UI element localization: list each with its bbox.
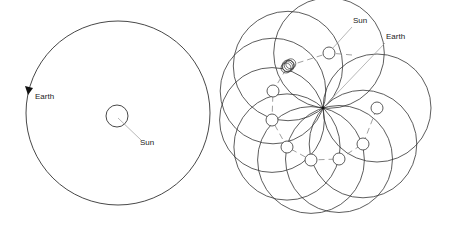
sun-position-circle [281,141,293,153]
sun-position-circle [266,114,278,126]
diagram-canvas [0,0,451,227]
direction-arrow-icon [25,86,33,95]
earth-label-left: Earth [35,92,54,101]
earth-label-right: Earth [386,32,405,41]
sun-label-right: Sun [353,16,367,25]
sun-position-circle [323,47,335,59]
earth-point [322,107,325,110]
sun-position-circle [333,153,345,165]
earth-orbit [26,21,210,205]
sun-position-circle [305,154,317,166]
sun-label-left: Sun [140,138,154,147]
heliocentric-diagram [25,21,210,205]
sun-leader-line [118,118,141,140]
sun-position-circle [357,138,369,150]
sun-circle [106,105,128,127]
sun-position-circle [371,102,383,114]
sun-position-circle [267,85,279,97]
